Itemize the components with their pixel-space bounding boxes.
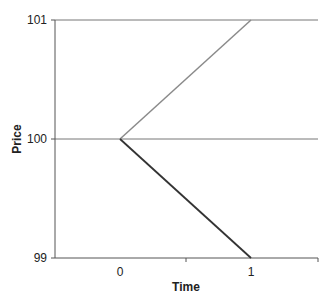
x-tick-label-0: 0 — [117, 265, 124, 279]
series-up-line — [120, 20, 251, 139]
x-axis-label: Time — [172, 280, 200, 294]
x-tick-label-1: 1 — [248, 265, 255, 279]
y-tick-label-100: 100 — [27, 132, 47, 146]
series-down-line — [120, 139, 251, 258]
price-time-chart: 101 100 99 0 1 Time Price — [0, 0, 332, 303]
y-tick-label-99: 99 — [34, 251, 48, 265]
y-tick-label-101: 101 — [27, 13, 47, 27]
y-axis-label: Price — [10, 124, 24, 154]
